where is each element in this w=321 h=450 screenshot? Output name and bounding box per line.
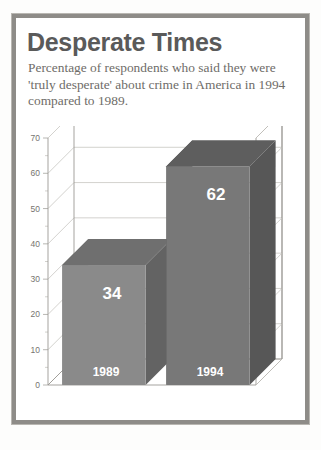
- bar-category-label: 1994: [197, 365, 224, 379]
- bar-value-label: 62: [207, 185, 226, 204]
- bar-value-label: 34: [103, 284, 122, 303]
- chart-y-tick-labels: 010203040506070: [31, 133, 41, 390]
- chart-page: Desperate Times Percentage of respondent…: [0, 0, 321, 450]
- bar-column: [166, 140, 275, 385]
- chart-y-ticks: [43, 138, 48, 385]
- y-tick-label: 0: [35, 380, 40, 390]
- y-tick-label: 10: [31, 345, 41, 355]
- y-tick-label: 20: [31, 309, 41, 319]
- chart-plot-area: 010203040506070 341989621994: [18, 126, 303, 416]
- chart-bars: [62, 140, 275, 385]
- bar-right-face: [250, 140, 276, 385]
- page-title: Desperate Times: [27, 28, 222, 57]
- y-tick-label: 70: [31, 133, 41, 143]
- chart-subtitle: Percentage of respondents who said they …: [28, 60, 296, 110]
- y-tick-label: 50: [31, 204, 41, 214]
- y-tick-label: 60: [31, 168, 41, 178]
- bar-category-label: 1989: [93, 365, 120, 379]
- y-tick-label: 40: [31, 239, 41, 249]
- bar-column: [62, 239, 171, 385]
- y-tick-label: 30: [31, 274, 41, 284]
- bar-chart-svg: 010203040506070 341989621994: [18, 126, 303, 416]
